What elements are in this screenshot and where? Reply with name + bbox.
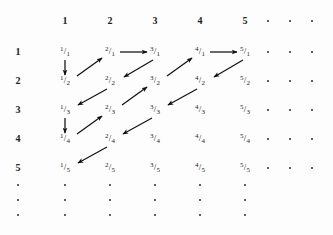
denominator: 1	[156, 50, 160, 58]
ellipsis-dot-bottom-r1-c3	[154, 199, 156, 201]
ellipsis-dot-bottom-r2-c5	[244, 214, 246, 216]
numerator: 3	[150, 74, 154, 82]
numerator: 4	[195, 132, 199, 140]
fraction-1-over-4: 1/4	[60, 133, 70, 146]
denominator: 3	[66, 108, 70, 116]
ellipsis-dot-bottom-r1-c2	[109, 199, 111, 201]
ellipsis-dot-bottom-r1-c1	[64, 199, 66, 201]
ellipsis-dot-right-r5-c2	[311, 167, 313, 169]
denominator: 2	[156, 79, 160, 87]
ellipsis-dot-right-r2-c2	[311, 80, 313, 82]
fraction-4-over-1: 4/1	[195, 46, 205, 59]
fraction-3-over-3: 3/3	[150, 104, 160, 117]
numerator: 4	[195, 45, 199, 53]
arrow-3-3-to-2-4	[123, 118, 152, 134]
ellipsis-dot-right-r4-c0	[267, 138, 269, 140]
arrow-4-2-to-3-3	[168, 89, 197, 105]
ellipsis-dot-right-r2-c0	[267, 80, 269, 82]
row-label-2: 2	[16, 76, 21, 86]
fraction-2-over-5: 2/5	[105, 162, 115, 175]
fraction-5-over-2: 5/2	[240, 75, 250, 88]
numerator: 2	[105, 161, 109, 169]
ellipsis-dot-right-r0-c1	[289, 20, 291, 22]
fraction-1-over-1: 1/1	[60, 46, 70, 59]
ellipsis-dot-right-r1-c2	[311, 51, 313, 53]
fraction-4-over-2: 4/2	[195, 75, 205, 88]
ellipsis-dot-right-r3-c0	[267, 109, 269, 111]
ellipsis-dot-bottom-r0-c1	[64, 184, 66, 186]
numerator: 5	[240, 74, 244, 82]
ellipsis-dot-right-r3-c1	[289, 109, 291, 111]
column-header-3: 3	[153, 16, 158, 26]
numerator: 2	[105, 45, 109, 53]
denominator: 4	[246, 137, 250, 145]
ellipsis-dot-bottom-r0-c0	[17, 184, 19, 186]
fraction-3-over-5: 3/5	[150, 162, 160, 175]
numerator: 5	[240, 45, 244, 53]
ellipsis-dot-bottom-r0-c5	[244, 184, 246, 186]
fraction-1-over-3: 1/3	[60, 104, 70, 117]
denominator: 4	[111, 137, 115, 145]
ellipsis-dot-right-r3-c2	[311, 109, 313, 111]
fraction-3-over-2: 3/2	[150, 75, 160, 88]
numerator: 1	[60, 132, 64, 140]
numerator: 5	[240, 132, 244, 140]
ellipsis-dot-right-r2-c1	[289, 80, 291, 82]
numerator: 4	[195, 74, 199, 82]
ellipsis-dot-right-r0-c0	[267, 20, 269, 22]
denominator: 2	[111, 79, 115, 87]
ellipsis-dot-bottom-r2-c2	[109, 214, 111, 216]
arrow-3-2-to-4-1	[167, 58, 192, 76]
numerator: 5	[240, 161, 244, 169]
fraction-4-over-3: 4/3	[195, 104, 205, 117]
fraction-3-over-4: 3/4	[150, 133, 160, 146]
fraction-2-over-2: 2/2	[105, 75, 115, 88]
denominator: 5	[246, 166, 250, 174]
fraction-2-over-4: 2/4	[105, 133, 115, 146]
numerator: 1	[60, 103, 64, 111]
denominator: 3	[201, 108, 205, 116]
ellipsis-dot-bottom-r0-c2	[109, 184, 111, 186]
arrow-2-4-to-1-5	[78, 147, 107, 163]
denominator: 2	[201, 79, 205, 87]
denominator: 5	[201, 166, 205, 174]
ellipsis-dot-bottom-r0-c4	[199, 184, 201, 186]
numerator: 3	[150, 161, 154, 169]
denominator: 3	[111, 108, 115, 116]
numerator: 1	[60, 161, 64, 169]
numerator: 2	[105, 74, 109, 82]
ellipsis-dot-right-r5-c1	[289, 167, 291, 169]
arrow-2-3-to-3-2	[122, 87, 147, 105]
denominator: 1	[246, 50, 250, 58]
ellipsis-dot-right-r0-c2	[311, 20, 313, 22]
arrow-3-1-to-2-2	[124, 60, 153, 77]
arrow-1-4-to-2-3	[77, 116, 102, 134]
denominator: 4	[201, 137, 205, 145]
numerator: 4	[195, 161, 199, 169]
column-header-5: 5	[243, 16, 248, 26]
numerator: 3	[150, 45, 154, 53]
fraction-3-over-1: 3/1	[150, 46, 160, 59]
ellipsis-dot-bottom-r1-c4	[199, 199, 201, 201]
arrow-1-2-to-2-1	[77, 58, 102, 76]
fraction-5-over-5: 5/5	[240, 162, 250, 175]
ellipsis-dot-right-r1-c0	[267, 51, 269, 53]
ellipsis-dot-bottom-r2-c1	[64, 214, 66, 216]
fraction-5-over-3: 5/3	[240, 104, 250, 117]
arrow-5-1-to-4-2	[214, 60, 243, 77]
arrow-2-2-to-1-3	[78, 89, 107, 105]
arrow-layer	[0, 0, 333, 235]
fraction-2-over-1: 2/1	[105, 46, 115, 59]
numerator: 2	[105, 132, 109, 140]
numerator: 3	[150, 132, 154, 140]
ellipsis-dot-right-r4-c1	[289, 138, 291, 140]
fraction-5-over-1: 5/1	[240, 46, 250, 59]
numerator: 1	[60, 74, 64, 82]
ellipsis-dot-bottom-r0-c3	[154, 184, 156, 186]
ellipsis-dot-bottom-r2-c0	[17, 214, 19, 216]
row-label-3: 3	[16, 105, 21, 115]
denominator: 5	[66, 166, 70, 174]
column-header-1: 1	[63, 16, 68, 26]
numerator: 2	[105, 103, 109, 111]
column-header-4: 4	[198, 16, 203, 26]
